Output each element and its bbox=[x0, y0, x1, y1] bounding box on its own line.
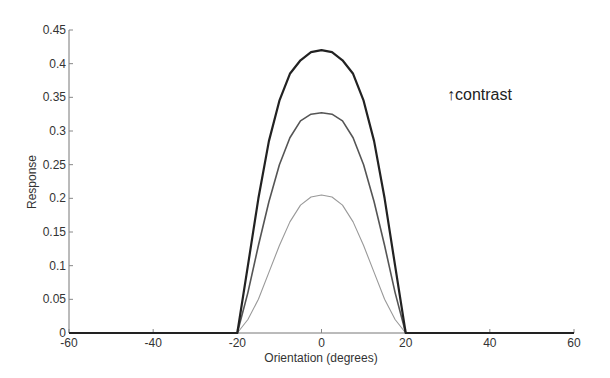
y-tick-label: 0.35 bbox=[43, 90, 67, 104]
contrast-annotation: ↑contrast bbox=[447, 86, 512, 103]
x-tick-label: -60 bbox=[60, 336, 78, 350]
x-tick-label: -40 bbox=[144, 336, 162, 350]
x-tick-label: 0 bbox=[318, 336, 325, 350]
y-tick-label: 0.15 bbox=[43, 225, 67, 239]
y-tick-label: 0.2 bbox=[49, 191, 66, 205]
x-tick-label: 40 bbox=[483, 336, 497, 350]
y-tick-label: 0.4 bbox=[49, 57, 66, 71]
y-tick-label: 0.25 bbox=[43, 158, 67, 172]
y-tick-label: 0.45 bbox=[43, 23, 67, 37]
y-tick-label: 0.1 bbox=[49, 259, 66, 273]
y-tick-label: 0.3 bbox=[49, 124, 66, 138]
tuning-curve-chart: 00.050.10.150.20.250.30.350.40.45-60-40-… bbox=[0, 0, 610, 378]
y-axis-label: Response bbox=[25, 155, 39, 209]
series-line bbox=[69, 195, 574, 333]
x-axis-label: Orientation (degrees) bbox=[264, 351, 377, 365]
x-tick-label: 20 bbox=[399, 336, 413, 350]
series-line bbox=[69, 113, 574, 333]
axes: 00.050.10.150.20.250.30.350.40.45-60-40-… bbox=[43, 23, 581, 350]
y-tick-label: 0.05 bbox=[43, 292, 67, 306]
x-tick-label: -20 bbox=[229, 336, 247, 350]
x-tick-label: 60 bbox=[567, 336, 581, 350]
